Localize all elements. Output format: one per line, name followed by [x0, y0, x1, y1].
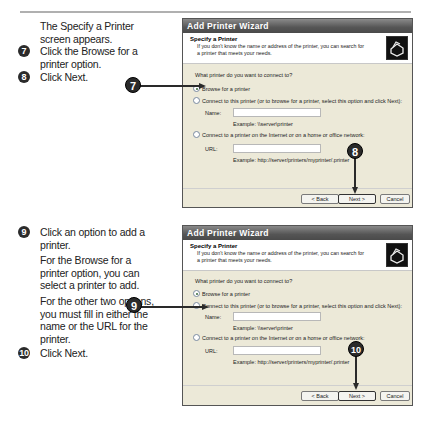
radio-label: Browse for a printer — [202, 86, 250, 92]
next-button[interactable]: Next > — [338, 194, 376, 204]
header-description: If you don't know the name or address of… — [197, 250, 367, 263]
name-label: Name: — [205, 110, 221, 116]
radio-label: Browse for a printer — [202, 291, 250, 297]
step-number: 7 — [18, 45, 30, 57]
radio-icon[interactable] — [193, 131, 200, 138]
step-number: 9 — [18, 226, 30, 238]
radio-selected-icon[interactable] — [193, 290, 200, 297]
callout-10: 10 — [348, 341, 364, 357]
radio-connect-name[interactable]: Connect to this printer (or to browse fo… — [193, 97, 402, 104]
step-text: Click Next. — [40, 347, 160, 360]
printer-icon — [386, 36, 408, 60]
add-printer-wizard-dialog-1: Add Printer Wizard Specify a Printer If … — [182, 18, 413, 208]
back-button[interactable]: < Back — [301, 391, 339, 401]
callout-8-line — [354, 158, 356, 188]
name-input[interactable] — [233, 108, 321, 117]
radio-icon[interactable] — [193, 334, 200, 341]
dialog-body: What printer do you want to connect to? … — [183, 271, 412, 406]
footer-divider — [183, 188, 412, 189]
radio-connect-url[interactable]: Connect to a printer on the Internet or … — [193, 334, 365, 341]
callout-8: 8 — [347, 143, 363, 159]
printer-icon — [386, 243, 408, 267]
dialog-titlebar: Add Printer Wizard — [183, 226, 412, 240]
url-input[interactable] — [233, 346, 321, 355]
dialog-body: What printer do you want to connect to? … — [183, 64, 412, 208]
intro-text: The Specify a Printer screen appears. — [40, 20, 160, 45]
name-example: Example: \\server\printer — [233, 325, 293, 331]
step-text: Click Next. — [40, 71, 160, 84]
arrow-right-icon — [202, 304, 209, 310]
name-input[interactable] — [233, 312, 321, 321]
next-button[interactable]: Next > — [338, 391, 376, 401]
radio-label: Connect to a printer on the Internet or … — [202, 335, 365, 341]
arrow-down-icon — [352, 187, 358, 194]
step-text: Click the Browse for a printer option. — [40, 45, 160, 70]
step-number: 10 — [18, 347, 30, 359]
radio-connect-url[interactable]: Connect to a printer on the Internet or … — [193, 131, 365, 138]
callout-7: 7 — [125, 77, 141, 93]
arrow-right-icon — [199, 83, 206, 89]
header-title: Specify a Printer — [190, 36, 237, 42]
radio-label: Connect to this printer (or to browse fo… — [202, 98, 402, 104]
callout-7-line — [140, 85, 200, 87]
callout-9-line — [141, 306, 203, 308]
header-description: If you don't know the name or address of… — [197, 43, 367, 56]
name-example: Example: \\server\printer — [233, 121, 293, 127]
dialog-header: Specify a Printer If you don't know the … — [183, 240, 412, 271]
question-label: What printer do you want to connect to? — [195, 72, 292, 78]
callout-9: 9 — [126, 297, 142, 313]
url-example: Example: http://server/printers/myprinte… — [233, 157, 349, 163]
callout-10-line — [355, 356, 357, 384]
radio-label: Connect to this printer (or to browse fo… — [202, 303, 402, 309]
radio-browse[interactable]: Browse for a printer — [193, 290, 250, 297]
name-label: Name: — [205, 314, 221, 320]
url-label: URL: — [205, 348, 218, 354]
dialog-titlebar: Add Printer Wizard — [183, 19, 412, 33]
back-button[interactable]: < Back — [301, 194, 339, 204]
arrow-down-icon — [353, 383, 359, 390]
radio-label: Connect to a printer on the Internet or … — [202, 132, 365, 138]
step-text: Click an option to add a printer. — [40, 226, 160, 251]
url-label: URL: — [205, 146, 218, 152]
header-title: Specify a Printer — [190, 243, 237, 249]
radio-icon[interactable] — [193, 97, 200, 104]
radio-connect-name[interactable]: Connect to this printer (or to browse fo… — [193, 302, 402, 309]
step-text: For the other two options, you must fill… — [40, 295, 160, 345]
dialog-header: Specify a Printer If you don't know the … — [183, 33, 412, 64]
step-number: 8 — [18, 71, 30, 83]
cancel-button[interactable]: Cancel — [380, 194, 410, 204]
cancel-button[interactable]: Cancel — [380, 391, 410, 401]
top-rule — [20, 11, 411, 13]
url-example: Example: http://server/printers/myprinte… — [233, 359, 349, 365]
footer-divider — [183, 385, 412, 386]
step-text: For the Browse for a printer option, you… — [40, 254, 160, 292]
add-printer-wizard-dialog-2: Add Printer Wizard Specify a Printer If … — [182, 225, 413, 406]
question-label: What printer do you want to connect to? — [195, 278, 292, 284]
url-input[interactable] — [233, 144, 321, 153]
